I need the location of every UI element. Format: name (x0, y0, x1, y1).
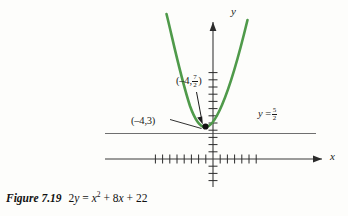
equation-plus-twentytwo: + 22 (127, 192, 148, 204)
equation-x-exponent: 2 (97, 190, 101, 199)
figure-equation: 2y = x2 + 8x + 22 (69, 192, 148, 204)
line-label-equals: = (265, 108, 271, 119)
equation-equals: = (82, 192, 89, 204)
figure-graphic (0, 0, 348, 216)
line-label-fraction: 52 (272, 107, 278, 122)
line-label-y-var: y (258, 108, 263, 119)
vertex-label-fraction-denominator: 2 (192, 82, 197, 89)
vertex-label-fraction: 72 (192, 74, 197, 89)
vertex-annotation-arrow-shaft (197, 92, 202, 119)
vertex-point-marker (202, 123, 208, 129)
equation-x-variable-2: x (119, 192, 124, 204)
figure-number: Figure 7.19 (6, 192, 62, 204)
point-coordinate-label: (–4,3) (131, 115, 155, 126)
vertex-label-x-value: –4 (179, 75, 189, 86)
parabola-curve (167, 14, 248, 127)
equation-lhs-variable: y (74, 192, 79, 204)
vertex-label-close-paren: ) (198, 75, 201, 86)
equation-plus-eight: + 8 (103, 192, 118, 204)
horizontal-line-equation-label: y =52 (258, 107, 278, 122)
figure-caption: Figure 7.192y = x2 + 8x + 22 (6, 190, 147, 204)
y-axis-label: y (231, 5, 236, 17)
line-label-fraction-denominator: 2 (272, 115, 278, 122)
x-axis-arrowhead (313, 156, 322, 163)
y-axis-arrowhead (210, 22, 217, 31)
vertex-coordinate-label: (–4,72) (176, 74, 201, 89)
figure-page: y x (–4,72) (–4,3) y =52 Figure 7.192y =… (0, 0, 348, 216)
x-axis-label: x (330, 150, 335, 162)
